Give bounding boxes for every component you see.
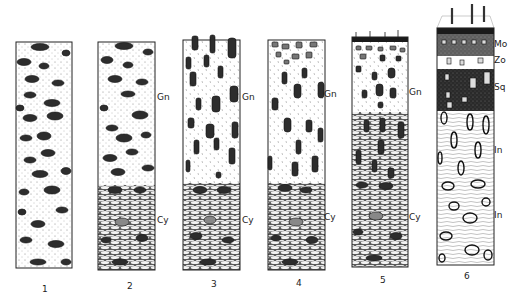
horizon-label: Sq	[494, 83, 505, 92]
column-number: 2	[127, 282, 133, 291]
column-2	[98, 42, 155, 270]
column-4	[268, 40, 325, 270]
column-number: 6	[464, 272, 470, 281]
horizon-label: Zo	[494, 56, 506, 65]
column-6	[437, 4, 494, 265]
horizon-label: In	[494, 146, 502, 155]
column-number: 3	[211, 280, 217, 289]
horizon-label: In	[494, 211, 502, 220]
column-5	[352, 30, 408, 267]
horizon-label: Cy	[324, 213, 336, 222]
column-number: 4	[296, 279, 302, 288]
column-number: 5	[380, 276, 386, 285]
column-3	[183, 35, 240, 270]
column-number: 1	[42, 285, 48, 294]
horizon-label: Gn	[157, 93, 170, 102]
horizon-label: Gn	[409, 88, 422, 97]
horizon-label: Cy	[157, 216, 169, 225]
column-1	[16, 42, 72, 268]
horizon-label: Gn	[242, 93, 255, 102]
horizon-label: Cy	[242, 216, 254, 225]
horizon-label: Mo	[494, 40, 507, 49]
profile-diagram	[0, 0, 520, 302]
horizon-label: Gn	[324, 90, 337, 99]
horizon-label: Cy	[409, 213, 421, 222]
